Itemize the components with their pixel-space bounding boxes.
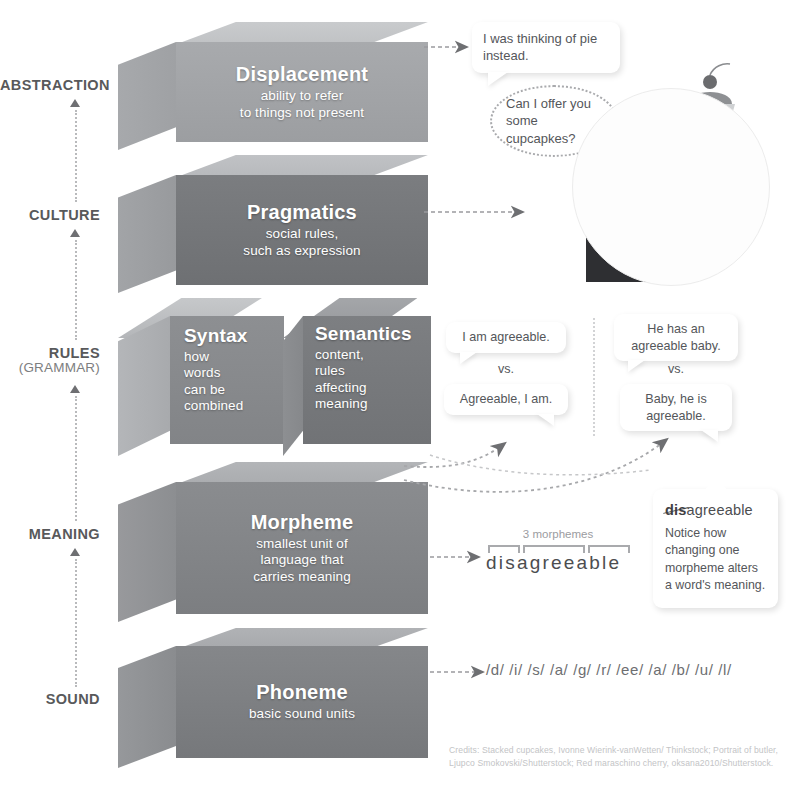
axis-dotline-2 xyxy=(75,240,77,340)
block-title: Morpheme xyxy=(251,511,354,533)
axis-label-text: CULTURE xyxy=(29,207,100,223)
bubble-syntax-left-top: I am agreeable. xyxy=(446,322,566,353)
block-title: Syntax xyxy=(184,326,248,347)
bubble-text: Agreeable, I am. xyxy=(460,392,552,406)
callout-rest: agreeable xyxy=(687,502,753,518)
block-semantics: Semantics content,rulesaffectingmeaning xyxy=(283,298,433,458)
axis-label-rules: RULES (GRAMMAR) xyxy=(0,346,100,375)
block-left-face xyxy=(118,646,176,768)
block-left-face xyxy=(118,42,176,150)
panel-divider xyxy=(593,318,595,436)
block-front-face: Displacement ability to referto things n… xyxy=(176,42,428,142)
axis-label-text: SOUND xyxy=(46,691,100,707)
axis-label-sound: SOUND xyxy=(0,692,100,707)
vs-label-right: vs. xyxy=(614,362,738,376)
block-description: basic sound units xyxy=(249,706,355,722)
morpheme-word: disagreeable xyxy=(486,552,621,574)
block-displacement: Displacement ability to referto things n… xyxy=(118,22,428,142)
bubble-pie-text: I was thinking of pie instead. xyxy=(483,31,597,63)
block-front-face: Syntax howwordscan becombined xyxy=(170,316,284,444)
axis-dotline-3 xyxy=(75,396,77,521)
block-title: Phoneme xyxy=(256,681,347,703)
axis-dotline-4 xyxy=(75,559,77,687)
morpheme-caption: 3 morphemes xyxy=(484,528,632,540)
bubble-tail-icon xyxy=(537,414,554,426)
bubble-tail-icon xyxy=(488,72,508,86)
callout-struck-prefix: dis xyxy=(665,502,687,518)
axis-arrow-meaning xyxy=(70,548,80,556)
block-left-face xyxy=(118,482,176,622)
axis-label-abstraction: ABSTRACTION xyxy=(0,78,100,93)
infographic-language-levels: ABSTRACTION CULTURE RULES (GRAMMAR) MEAN… xyxy=(0,0,810,790)
credits-text: Credits: Stacked cupcakes, Ivonne Wierin… xyxy=(449,744,785,770)
block-front-face: Morpheme smallest unit oflanguage thatca… xyxy=(176,482,428,614)
block-front-face: Phoneme basic sound units xyxy=(176,646,428,758)
photo-disc-background xyxy=(572,88,770,286)
block-front-face: Semantics content,rulesaffectingmeaning xyxy=(303,316,431,444)
axis-label-sublabel: (GRAMMAR) xyxy=(0,361,100,375)
callout-title: disagreeable xyxy=(665,501,766,520)
block-morpheme: Morpheme smallest unit oflanguage thatca… xyxy=(118,462,428,622)
axis-label-meaning: MEANING xyxy=(0,527,100,542)
block-pragmatics: Pragmatics social rules,such as expressi… xyxy=(118,155,428,290)
callout-disagreeable: disagreeable Notice how changing one mor… xyxy=(653,489,778,608)
block-description: content,rulesaffectingmeaning xyxy=(315,347,368,413)
axis-dotline-1 xyxy=(75,110,77,202)
block-front-face: Pragmatics social rules,such as expressi… xyxy=(176,175,428,285)
vs-text: vs. xyxy=(498,362,514,376)
bubble-tail-icon xyxy=(701,430,718,442)
block-title: Displacement xyxy=(236,63,368,85)
vs-label-left: vs. xyxy=(446,362,566,376)
bubble-text: I am agreeable. xyxy=(462,330,550,344)
phoneme-sequence: /d/ /i/ /s/ /a/ /g/ /r/ /ee/ /a/ /b/ /u/… xyxy=(486,661,732,678)
block-title: Semantics xyxy=(315,324,412,345)
block-title: Pragmatics xyxy=(247,201,357,223)
bubble-syntax-right-bottom: Baby, he is agreeable. xyxy=(620,384,732,431)
block-description: social rules,such as expression xyxy=(243,226,360,259)
vs-text: vs. xyxy=(668,362,684,376)
block-phoneme: Phoneme basic sound units xyxy=(118,628,428,768)
morpheme-example: 3 morphemes disagreeable xyxy=(484,528,632,578)
axis-arrow-rules xyxy=(70,385,80,393)
bubble-syntax-right-top: He has an agreeable baby. xyxy=(614,314,738,361)
axis-label-text: MEANING xyxy=(29,526,100,542)
block-description: smallest unit oflanguage thatcarries mea… xyxy=(253,536,351,585)
axis-arrow-culture xyxy=(70,229,80,237)
callout-tail-icon xyxy=(705,476,727,490)
block-left-face xyxy=(118,175,176,293)
block-description: ability to referto things not present xyxy=(240,88,364,121)
butler-photo xyxy=(548,60,798,290)
axis-label-culture: CULTURE xyxy=(0,208,100,223)
callout-body: Notice how changing one morpheme alters … xyxy=(665,525,766,593)
block-description: howwordscan becombined xyxy=(184,349,243,415)
bubble-text: Baby, he is agreeable. xyxy=(645,392,706,423)
block-syntax: Syntax howwordscan becombined xyxy=(118,298,288,458)
bubble-text: He has an agreeable baby. xyxy=(631,322,720,353)
axis-label-text: ABSTRACTION xyxy=(0,77,110,93)
bubble-syntax-left-bottom: Agreeable, I am. xyxy=(444,384,568,415)
axis-label-text: RULES xyxy=(49,345,100,361)
axis-arrow-abstraction xyxy=(70,99,80,107)
